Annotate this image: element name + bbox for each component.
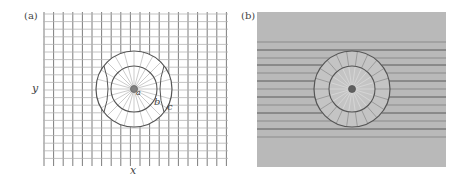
panel-b-cloak: [314, 51, 390, 127]
panel-a-label: (a): [24, 10, 38, 21]
x-axis-label: x: [130, 164, 136, 177]
panel-b-label: (b): [241, 10, 255, 21]
figure-canvas: [0, 0, 467, 182]
y-axis-label: y: [32, 82, 38, 95]
region-label-b: b: [154, 96, 160, 107]
region-label-c: c: [167, 101, 173, 112]
panel-a-cloak: [96, 51, 172, 127]
region-label-a: a: [136, 88, 141, 97]
